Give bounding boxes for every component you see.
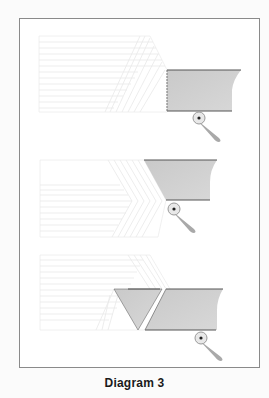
diagram-caption: Diagram 3 bbox=[0, 376, 269, 390]
pivot-pin-icon bbox=[195, 332, 223, 361]
background-pattern bbox=[39, 36, 167, 112]
pivot-pin-icon bbox=[193, 112, 221, 142]
panel-step-3 bbox=[40, 255, 223, 361]
shaded-piece bbox=[167, 70, 241, 111]
panel-step-2 bbox=[40, 160, 217, 237]
diagram-illustration bbox=[0, 0, 269, 398]
panel-step-1 bbox=[39, 36, 241, 142]
pivot-pin-icon bbox=[168, 203, 196, 233]
background-pattern bbox=[40, 160, 166, 237]
